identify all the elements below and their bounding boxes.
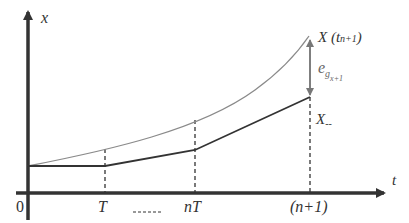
error-label-subsub: x+1 bbox=[330, 74, 343, 83]
true-state-label-close: ) bbox=[357, 29, 362, 45]
tick-label-n1: (n+1) bbox=[290, 199, 327, 215]
y-axis-label: x bbox=[41, 10, 48, 26]
estimate-label-sub: -- bbox=[325, 118, 332, 129]
x-axis-label: t bbox=[392, 173, 396, 188]
true-state-curve bbox=[28, 36, 309, 166]
true-state-label-sub: n+1 bbox=[340, 33, 357, 44]
estimate-label: X-- bbox=[316, 112, 332, 129]
estimate-label-main: X bbox=[316, 111, 325, 127]
true-state-label-main: X (t bbox=[318, 29, 340, 45]
tick-label-T: T bbox=[98, 199, 107, 215]
tick-label-nT: nT bbox=[184, 199, 201, 215]
true-state-label: X (tn+1) bbox=[318, 30, 362, 45]
error-label: egx+1 bbox=[318, 60, 343, 83]
origin-label: 0 bbox=[16, 199, 24, 215]
